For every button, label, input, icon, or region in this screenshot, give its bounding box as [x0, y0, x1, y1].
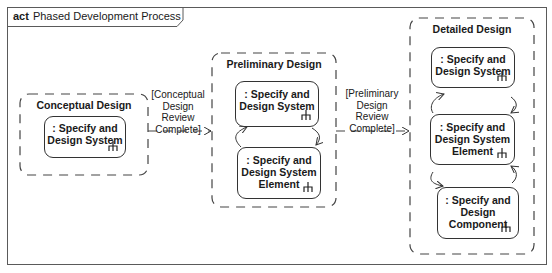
action-detail-specify-system[interactable]: : Specify and Design System	[431, 47, 515, 88]
rake-icon	[497, 71, 507, 81]
region-title-preliminary: Preliminary Design	[212, 58, 336, 70]
flow-detail-element-to-system[interactable]	[431, 94, 444, 113]
action-detail-specify-component[interactable]: : Specify and Design Component	[437, 187, 519, 239]
rake-icon	[301, 110, 311, 120]
rake-icon	[303, 182, 313, 192]
rake-icon	[108, 141, 118, 151]
action-detail-specify-element[interactable]: : Specify and Design System Element	[430, 114, 515, 165]
region-title-conceptual: Conceptual Design	[20, 99, 148, 111]
action-prelim-specify-system[interactable]: : Specify and Design System	[235, 81, 319, 127]
region-title-detailed: Detailed Design	[410, 23, 534, 35]
guard-conceptual-review: [Conceptual Design Review Complete]	[148, 89, 208, 135]
flow-detail-component-to-element[interactable]	[511, 166, 516, 183]
rake-icon	[497, 148, 507, 158]
action-prelim-specify-element[interactable]: : Specify and Design System Element	[237, 147, 321, 199]
flow-detail-element-to-component[interactable]	[431, 172, 443, 186]
flow-prelim-system-to-element[interactable]	[312, 128, 319, 145]
flow-detail-system-to-element[interactable]	[511, 97, 516, 113]
rake-icon	[501, 222, 511, 232]
flow-prelim-element-to-system[interactable]	[236, 127, 247, 147]
guard-preliminary-review: [Preliminary Design Review Complete]	[340, 88, 404, 134]
action-conceptual-specify-system[interactable]: : Specify and Design System	[44, 116, 126, 158]
